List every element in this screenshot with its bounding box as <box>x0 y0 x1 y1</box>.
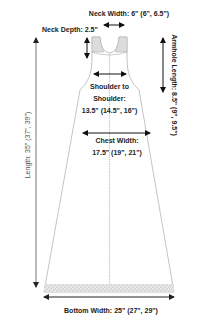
chest-label-line2: 17.5" (19", 21") <box>92 149 142 157</box>
bottom-width-label: Bottom Width: 25" (27", 29") <box>64 307 158 315</box>
right-strap-shading <box>115 37 127 52</box>
neck-width-label: Neck Width: 6" (6", 6.5") <box>89 10 169 18</box>
shoulder-label-line1: Shoulder to <box>90 83 129 90</box>
left-strap-shading <box>92 37 104 52</box>
dress-schematic: Neck Width: 6" (6", 6.5") Neck Depth: 2.… <box>0 0 205 321</box>
neck-depth-label: Neck Depth: 2.5" <box>42 26 98 34</box>
shoulder-label-line2: Shoulder: <box>93 95 126 102</box>
length-label: Length: 35" (37", 39") <box>24 112 32 179</box>
hem-band <box>44 284 174 292</box>
chest-label-line1: Chest Width: <box>95 137 138 144</box>
shoulder-label-line3: 13.5" (14.5", 16") <box>82 107 138 115</box>
armhole-length-label: Armhole Length: 8.5" (9", 9.5") <box>170 34 178 136</box>
